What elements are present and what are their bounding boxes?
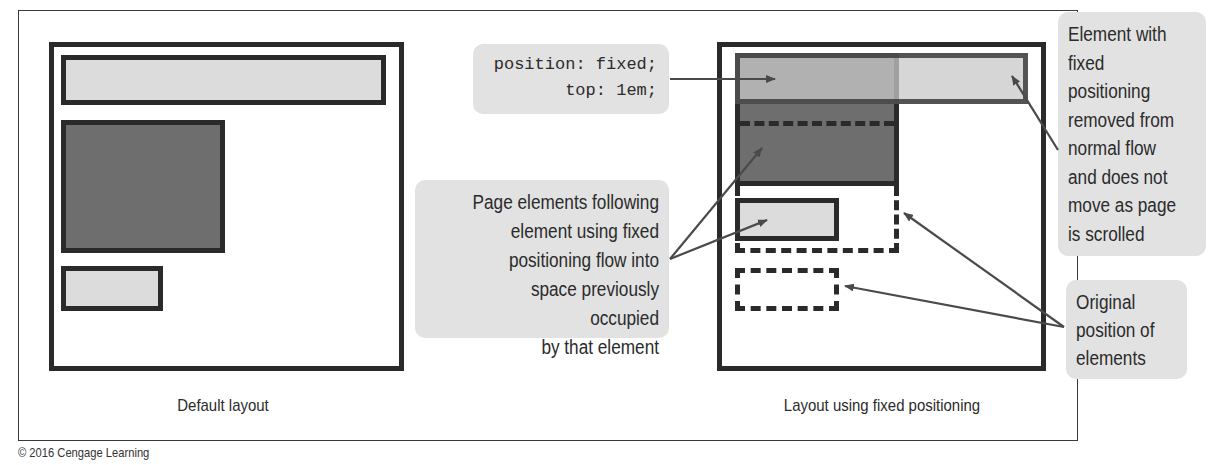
original-line-1: Original <box>1076 288 1163 316</box>
fixed-line-1: Element with <box>1068 20 1178 49</box>
original-small-box-outline <box>735 268 839 311</box>
fixed-line-5: normal flow <box>1068 134 1178 163</box>
flow-line-1: Page elements following <box>458 188 659 217</box>
fixed-layout-caption: Layout using fixed positioning <box>772 396 992 416</box>
original-line-2: position of <box>1076 316 1163 344</box>
fixed-line-4: removed from <box>1068 106 1178 135</box>
original-line-3: elements <box>1076 344 1163 372</box>
fixed-line-8: is scrolled <box>1068 220 1178 249</box>
default-header-box <box>61 55 386 105</box>
flow-line-3: positioning flow into <box>458 246 659 275</box>
flow-callout: Page elements following element using fi… <box>415 180 669 338</box>
flow-line-2: element using fixed <box>458 217 659 246</box>
code-callout: position: fixed; top: 1em; <box>473 44 669 114</box>
default-content-box <box>61 120 225 253</box>
copyright-notice: © 2016 Cengage Learning <box>18 445 149 460</box>
fixed-line-3: positioning <box>1068 77 1178 106</box>
fixed-line-2: fixed <box>1068 49 1178 78</box>
fixed-line-7: move as page <box>1068 191 1178 220</box>
fixed-element-callout: Element with fixed positioning removed f… <box>1058 12 1206 256</box>
default-layout-caption: Default layout <box>135 396 311 416</box>
code-line-top: top: 1em; <box>485 78 657 104</box>
flow-line-4: space previously occupied <box>458 275 659 333</box>
default-small-box <box>61 266 163 311</box>
original-top-dashed-line <box>740 121 894 126</box>
original-content-outline <box>735 186 899 253</box>
original-position-callout: Original position of elements <box>1066 280 1187 379</box>
flow-line-5: by that element <box>458 333 659 362</box>
code-line-position: position: fixed; <box>485 52 657 78</box>
fixed-header-box <box>735 53 1028 104</box>
fixed-line-6: and does not <box>1068 163 1178 192</box>
